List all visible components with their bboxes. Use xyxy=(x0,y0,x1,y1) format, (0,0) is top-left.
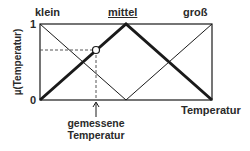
measured-temperature-label: gemessene Temperatur xyxy=(67,117,124,141)
y-axis-label: µ(Temperatur) xyxy=(12,29,24,96)
y-tick-one: 1 xyxy=(30,18,36,30)
membership-plot xyxy=(0,0,250,151)
plot-frame xyxy=(40,24,212,100)
measured-point-marker xyxy=(93,47,100,54)
x-axis-label: Temperatur xyxy=(181,104,241,116)
membership-line-mittel xyxy=(40,24,212,100)
set-label-mittel: mittel xyxy=(108,6,137,18)
measured-label-line2: Temperatur xyxy=(67,129,124,141)
set-label-klein: klein xyxy=(35,6,60,18)
set-label-gross: groß xyxy=(183,6,207,18)
fuzzy-temperature-diagram: klein mittel groß 1 0 µ(Temperatur) Temp… xyxy=(0,0,250,151)
y-tick-zero: 0 xyxy=(30,94,36,106)
measured-label-line1: gemessene xyxy=(67,117,124,129)
